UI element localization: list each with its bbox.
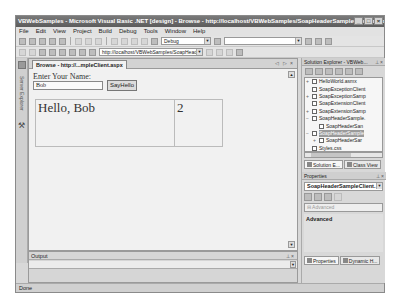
move-up-icon[interactable]	[216, 49, 223, 56]
menu-project[interactable]: Project	[73, 27, 92, 36]
add-item-icon[interactable]	[29, 38, 36, 45]
say-hello-button[interactable]: SayHello	[107, 80, 137, 91]
solution-explorer-controls[interactable]: ⊥ ×	[375, 58, 383, 66]
server-explorer-tab[interactable]: Server Explorer	[19, 76, 25, 111]
show-all-files-icon[interactable]	[335, 68, 343, 75]
explorer-tabs: Solution E... Class View	[304, 160, 383, 169]
indent-icon[interactable]	[206, 49, 213, 56]
cut-icon[interactable]	[75, 38, 82, 45]
properties-controls[interactable]: ⊥ ×	[376, 172, 384, 180]
status-text: Done	[19, 285, 32, 291]
scroll-thumb[interactable]	[311, 153, 351, 157]
stop-icon[interactable]	[39, 49, 46, 56]
tab-browse[interactable]: Browse - http://...mpleClient.aspx	[32, 60, 127, 69]
toolbox-hammer-icon[interactable]: ⚒	[18, 121, 25, 130]
tree-item[interactable]: +SoapHeaderSar	[305, 137, 382, 144]
events-icon[interactable]	[334, 193, 342, 201]
name-prompt-label: Enter Your Name:	[33, 72, 91, 81]
maximize-button[interactable]: □	[364, 17, 373, 25]
tree-item[interactable]: +SoapExceptionSamp	[305, 93, 382, 100]
view-code-icon[interactable]	[305, 68, 313, 75]
property-category[interactable]: ⊟ Advanced	[304, 203, 383, 212]
view-designer-icon[interactable]	[315, 68, 323, 75]
save-all-icon[interactable]	[59, 38, 66, 45]
properties-toolbar	[304, 193, 342, 201]
name-input[interactable]: Bob	[33, 81, 103, 90]
menu-debug[interactable]: Debug	[119, 27, 137, 36]
menu-file[interactable]: File	[19, 27, 29, 36]
start-icon[interactable]	[151, 38, 158, 45]
copy-icon[interactable]	[85, 38, 92, 45]
window-controls: _ □ ×	[354, 17, 383, 25]
property-description: Advanced	[304, 214, 383, 252]
navigate-forward-icon[interactable]	[141, 38, 148, 45]
open-file-icon[interactable]	[39, 38, 46, 45]
file-icon	[312, 79, 317, 84]
output-source-select[interactable]: ▼	[29, 261, 297, 269]
refresh-icon[interactable]	[325, 68, 333, 75]
menu-help[interactable]: Help	[193, 27, 205, 36]
tab-class-view[interactable]: Class View	[344, 160, 381, 169]
back-icon[interactable]	[19, 49, 26, 56]
refresh-icon[interactable]	[49, 49, 56, 56]
properties-pane: Properties ⊥ × SoapHeaderSampleClient. ▼…	[302, 172, 386, 283]
solution-explorer-icon[interactable]	[305, 38, 312, 45]
url-input[interactable]: http://localhost/VBWebSamples/SoapHead ▼	[99, 48, 203, 56]
text-style-icon[interactable]	[236, 49, 243, 56]
ide-window: VBWebSamples - Microsoft Visual Basic .N…	[15, 15, 385, 293]
menu-build[interactable]: Build	[99, 27, 112, 36]
solution-explorer-header: Solution Explorer - VBWeb... ⊥ ×	[302, 58, 385, 66]
properties-icon[interactable]	[315, 38, 322, 45]
tab-properties[interactable]: Properties	[304, 256, 339, 265]
tree-item[interactable]: +SoapExtensionSamp	[305, 108, 382, 115]
scroll-up-button[interactable]: ▲	[288, 71, 295, 78]
object-select[interactable]: SoapHeaderSampleClient. ▼	[304, 182, 383, 191]
menu-window[interactable]: Window	[165, 27, 186, 36]
minimize-button[interactable]: _	[354, 17, 363, 25]
save-icon[interactable]	[49, 38, 56, 45]
server-explorer-icon[interactable]	[18, 61, 26, 69]
menu-tools[interactable]: Tools	[144, 27, 158, 36]
search-icon[interactable]	[69, 49, 76, 56]
undo-icon[interactable]	[111, 38, 118, 45]
alphabetical-icon[interactable]	[314, 193, 322, 201]
favorites-icon[interactable]	[79, 49, 86, 56]
document-tab-controls[interactable]: ◁ ▷ ×	[275, 60, 294, 66]
font-icon[interactable]	[89, 49, 96, 56]
menu-edit[interactable]: Edit	[36, 27, 46, 36]
tab-solution-explorer[interactable]: Solution E...	[304, 160, 343, 169]
scroll-down-button[interactable]: ▼	[288, 241, 295, 248]
find-icon[interactable]	[214, 38, 221, 45]
home-icon[interactable]	[59, 49, 66, 56]
properties-icon[interactable]	[345, 68, 353, 75]
move-down-icon[interactable]	[226, 49, 233, 56]
toolbox-icon[interactable]	[325, 38, 332, 45]
forward-icon[interactable]	[29, 49, 36, 56]
browser-content: Enter Your Name: Bob SayHello Hello, Bob…	[29, 69, 297, 250]
categorized-icon[interactable]	[304, 193, 312, 201]
file-icon	[319, 138, 324, 143]
file-icon	[312, 101, 317, 106]
copy-project-icon[interactable]	[355, 68, 363, 75]
tree-horizontal-scrollbar[interactable]	[304, 152, 383, 158]
tree-item[interactable]: SoapExceptionClient	[305, 85, 382, 92]
menu-bar: File Edit View Project Build Debug Tools…	[16, 27, 384, 36]
tree-item[interactable]: +HelloWorld.asmx	[305, 78, 382, 85]
tab-dynamic-help[interactable]: Dynamic H...	[340, 256, 381, 265]
solution-config-select[interactable]: Debug ▼	[161, 37, 211, 45]
close-button[interactable]: ×	[374, 17, 383, 25]
help-icon	[343, 258, 348, 263]
redo-icon[interactable]	[121, 38, 128, 45]
tree-item[interactable]: Styles.css	[305, 145, 382, 152]
paste-icon[interactable]	[95, 38, 102, 45]
tree-item-selected[interactable]: −SoapHeaderSample	[305, 130, 382, 137]
output-pane-controls[interactable]: ⊥ ×	[286, 252, 294, 260]
tree-item[interactable]: SoapHeaderSan	[305, 122, 382, 129]
tree-item[interactable]: −SoapHeaderSample.	[305, 115, 382, 122]
navigate-back-icon[interactable]	[131, 38, 138, 45]
tree-item[interactable]: SoapExtensionClient	[305, 100, 382, 107]
property-pages-icon[interactable]	[324, 193, 332, 201]
new-project-icon[interactable]	[19, 38, 26, 45]
menu-view[interactable]: View	[53, 27, 66, 36]
find-combo[interactable]: ▼	[224, 37, 302, 45]
